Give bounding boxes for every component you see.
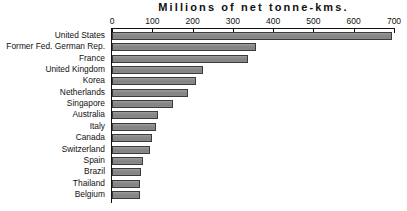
bar [112, 32, 392, 40]
x-tick-label-100: 100 [145, 16, 159, 26]
category-label: Canada [76, 133, 105, 142]
bar [112, 134, 152, 142]
bar [112, 180, 140, 188]
bar-chart: Millions of net tonne-kms. 0100200300400… [0, 0, 407, 211]
bar-row: Switzerland [0, 145, 407, 156]
category-label: Brazil [84, 167, 105, 176]
category-label: Singapore [67, 99, 105, 108]
bar-row: Thailand [0, 179, 407, 190]
bar-row: Singapore [0, 99, 407, 110]
bar [112, 55, 248, 63]
bar-row: France [0, 54, 407, 65]
category-label: Thailand [73, 179, 105, 188]
bar-row: Spain [0, 156, 407, 167]
bar [112, 168, 141, 176]
category-label: France [79, 54, 105, 63]
category-label: Spain [84, 156, 105, 165]
bar [112, 100, 173, 108]
category-label: Netherlands [60, 88, 105, 97]
x-tick-label-400: 400 [266, 16, 280, 26]
bar-row: Italy [0, 122, 407, 133]
bar [112, 157, 143, 165]
category-label: Korea [83, 76, 105, 85]
x-tick-label-200: 200 [185, 16, 199, 26]
bar [112, 111, 158, 119]
x-tick-label-700: 700 [387, 16, 401, 26]
category-label: United States [55, 31, 105, 40]
bar [112, 191, 140, 199]
x-tick-label-0: 0 [110, 16, 115, 26]
bar [112, 123, 156, 131]
bar [112, 43, 256, 51]
category-label: Belgium [75, 190, 105, 199]
bar [112, 77, 196, 85]
bar-row: United Kingdom [0, 65, 407, 76]
bar [112, 89, 188, 97]
x-tick-label-300: 300 [226, 16, 240, 26]
bar-row: United States [0, 31, 407, 42]
category-label: Italy [90, 122, 105, 131]
bar [112, 66, 203, 74]
x-tick-label-600: 600 [347, 16, 361, 26]
x-axis-line [112, 28, 395, 29]
bar-row: Belgium [0, 190, 407, 201]
bar-row: Canada [0, 133, 407, 144]
category-label: Former Fed. German Rep. [6, 42, 105, 51]
category-label: United Kingdom [45, 65, 105, 74]
bar-row: Netherlands [0, 88, 407, 99]
bar-row: Brazil [0, 167, 407, 178]
category-label: Australia [72, 110, 105, 119]
bar-row: Australia [0, 110, 407, 121]
x-tick-label-500: 500 [306, 16, 320, 26]
category-label: Switzerland [62, 145, 105, 154]
bar-row: Former Fed. German Rep. [0, 42, 407, 53]
chart-title: Millions of net tonne-kms. [112, 1, 395, 13]
bar [112, 146, 150, 154]
bar-row: Korea [0, 76, 407, 87]
